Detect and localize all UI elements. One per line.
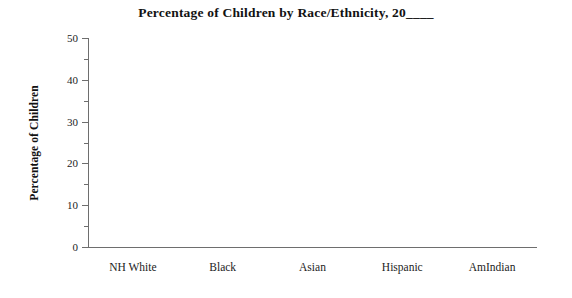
y-axis-tick-major — [82, 38, 88, 39]
y-axis-title-text: Percentage of Children — [28, 85, 40, 200]
x-axis-category-label: NH White — [88, 259, 178, 275]
y-axis-tick-label: 20 — [52, 157, 78, 169]
y-axis-tick-major — [82, 205, 88, 206]
y-axis-tick-minor — [84, 226, 88, 227]
y-axis-tick-label: 10 — [52, 199, 78, 211]
y-axis-tick-label-text: 20 — [52, 157, 78, 169]
plot-area — [88, 38, 537, 247]
y-axis-tick-minor — [84, 101, 88, 102]
y-axis-tick-minor — [84, 143, 88, 144]
y-axis-tick-major — [82, 80, 88, 81]
y-axis-line — [88, 38, 89, 248]
x-axis-category-label: Asian — [268, 259, 358, 275]
y-axis-tick-minor — [84, 184, 88, 185]
y-axis-tick-label: 40 — [52, 74, 78, 86]
y-axis-title: Percentage of Children — [24, 38, 44, 247]
y-axis-tick-major — [82, 163, 88, 164]
y-axis-tick-minor — [84, 59, 88, 60]
y-axis-tick-label-text: 0 — [52, 241, 78, 253]
chart-title: Percentage of Children by Race/Ethnicity… — [0, 5, 572, 21]
x-axis-category-label: Hispanic — [357, 259, 447, 275]
y-axis-tick-label: 0 — [52, 241, 78, 253]
y-axis-tick-label-text: 40 — [52, 74, 78, 86]
y-axis-tick-major — [82, 122, 88, 123]
x-axis-line — [88, 247, 537, 248]
y-axis-tick-label-text: 50 — [52, 32, 78, 44]
y-axis-tick-label: 30 — [52, 116, 78, 128]
x-axis-category-label: Black — [178, 259, 268, 275]
chart-figure: Percentage of Children by Race/Ethnicity… — [0, 0, 572, 298]
x-axis-category-label: AmIndian — [447, 259, 537, 275]
y-axis-tick-label-text: 30 — [52, 116, 78, 128]
y-axis-tick-label-text: 10 — [52, 199, 78, 211]
y-axis-tick-label: 50 — [52, 32, 78, 44]
y-axis-tick-major — [82, 247, 88, 248]
